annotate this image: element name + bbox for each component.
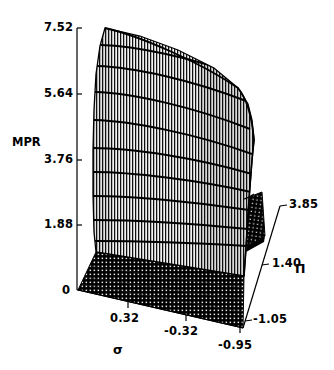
mpr-surface xyxy=(85,20,270,285)
y-tick-label-0: 3.85 xyxy=(289,199,318,211)
z-axis xyxy=(77,28,82,290)
z-tick-label-3: 1.88 xyxy=(44,219,73,231)
x-tick-label-2: -0.95 xyxy=(218,340,252,352)
z-tick-label-2: 3.76 xyxy=(44,154,73,166)
z-tick-label-0: 7.52 xyxy=(44,22,73,34)
z-axis-title: MPR xyxy=(12,137,41,149)
z-tick-label-1: 5.64 xyxy=(44,88,73,100)
y-axis-title: Π xyxy=(295,263,305,276)
z-tick-label-4: 0 xyxy=(62,285,70,297)
x-tick-label-1: -0.32 xyxy=(164,326,198,338)
x-axis-title: σ xyxy=(113,344,123,357)
x-tick-label-0: 0.32 xyxy=(110,313,139,325)
y-tick-label-2: -1.05 xyxy=(253,314,287,326)
surface-plot-figure: 7.52 5.64 3.76 1.88 0 MPR 0.32 -0.32 -0.… xyxy=(0,0,334,370)
